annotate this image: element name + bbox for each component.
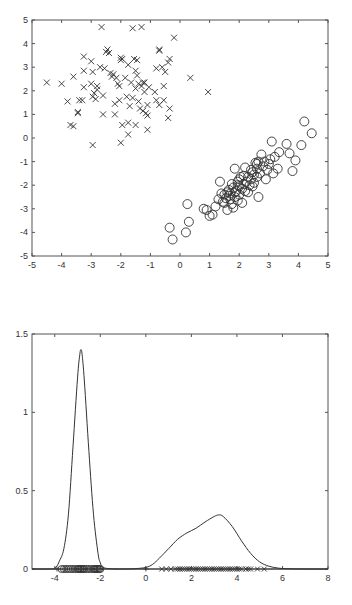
x-marker [100,93,106,99]
x-tick-label: 6 [280,573,285,583]
axes-frame [32,20,328,256]
o-marker [181,228,190,237]
x-marker [116,83,122,89]
o-marker [300,117,309,126]
y-tick-label: -3 [20,204,28,214]
x-marker [122,75,128,81]
o-marker [288,167,297,176]
x-marker [81,54,87,60]
x-tick-label: -3 [87,260,95,270]
x-tick-label: -4 [58,260,66,270]
o-marker [208,210,217,219]
x-marker [128,80,134,86]
x-marker [167,106,173,112]
y-tick-label: 3 [23,62,28,72]
x-marker [144,127,150,133]
x-marker [79,97,85,103]
x-marker [44,80,50,86]
x-marker [113,75,119,81]
x-tick-label: 8 [325,573,330,583]
x-marker [144,113,150,119]
y-tick-label: -1 [20,157,28,167]
x-marker [90,69,96,75]
axes-frame [32,334,328,569]
o-marker [267,137,276,146]
o-marker [291,156,300,165]
x-marker [133,68,139,74]
x-marker [127,103,133,109]
o-marker [168,235,177,244]
x-marker [156,47,162,53]
density-curve [32,350,328,569]
x-marker [119,122,125,128]
y-tick-label: 1 [23,109,28,119]
o-marker [230,164,239,173]
x-marker [139,24,145,30]
x-marker [112,101,118,107]
x-marker [161,97,167,103]
y-tick-label: 0 [23,564,28,574]
x-marker [88,81,94,87]
x-marker [171,35,177,41]
o-marker [282,139,291,148]
o-marker [297,141,306,150]
x-marker [112,111,118,117]
x-marker [133,122,139,128]
x-marker [124,94,130,100]
x-marker [130,25,136,31]
x-tick-label: 2 [237,260,242,270]
x-tick-label: 4 [296,260,301,270]
x-tick-label: -1 [146,260,154,270]
o-marker [307,129,316,138]
y-tick-label: -5 [20,251,28,261]
scatter-plot: -5-4-3-2-1012345-5-4-3-2-1012345 [20,15,331,270]
x-tick-label: 2 [189,573,194,583]
x-marker [136,98,142,104]
x-tick-label: 0 [177,260,182,270]
o-marker [183,200,192,209]
y-tick-label: 5 [23,15,28,25]
x-marker [118,140,124,146]
y-tick-label: 2 [23,86,28,96]
x-marker [102,65,108,71]
y-tick-label: 0 [23,133,28,143]
x-tick-label: 5 [325,260,330,270]
o-marker [215,177,224,186]
x-tick-label: 0 [143,573,148,583]
x-marker [134,72,140,78]
x-tick-label: 1 [207,260,212,270]
x-tick-label: -2 [117,260,125,270]
density-plot: -4-20246800.511.5 [15,329,330,583]
o-marker [184,217,193,226]
x-marker [94,83,100,89]
x-marker [75,110,81,116]
y-tick-label: 1.5 [15,329,28,339]
figure: -5-4-3-2-1012345-5-4-3-2-1012345 -4-2024… [0,0,352,605]
x-marker [90,142,96,148]
x-marker [125,131,131,137]
x-marker [99,24,105,30]
o-marker [254,193,263,202]
x-marker [144,102,150,108]
x-marker [116,97,122,103]
x-marker [125,62,131,68]
x-tick-label: -4 [51,573,59,583]
o-marker [261,175,270,184]
x-marker [187,75,193,81]
x-marker [146,84,152,90]
x-marker [88,58,94,64]
x-marker [65,98,71,104]
x-marker [130,95,136,101]
x-marker [125,120,131,126]
o-marker [202,205,211,214]
x-marker [76,97,82,103]
x-tick-label: 4 [234,573,239,583]
x-marker [93,96,99,102]
x-tick-label: 3 [266,260,271,270]
y-tick-label: -4 [20,227,28,237]
x-marker [205,89,211,95]
x-tick-label: -5 [28,260,36,270]
x-marker [153,65,159,71]
x-marker [161,83,167,89]
x-marker [165,115,171,121]
